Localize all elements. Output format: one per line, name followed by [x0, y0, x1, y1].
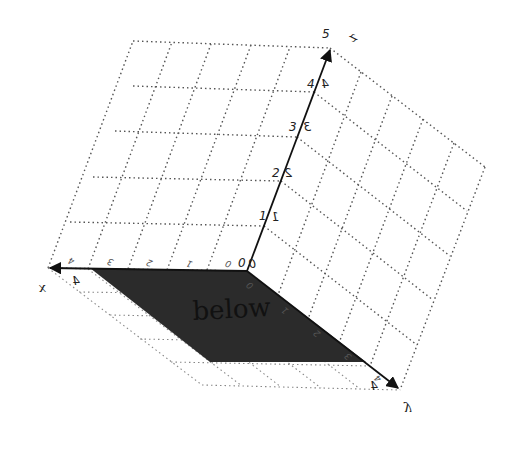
svg-text:3: 3	[106, 256, 115, 267]
svg-text:5: 5	[322, 27, 330, 41]
svg-text:2: 2	[145, 257, 154, 268]
svg-text:0: 0	[248, 257, 256, 271]
z-axis-name: z	[347, 31, 360, 48]
svg-text:1: 1	[271, 210, 279, 224]
z-axis-mirror-ticks: 0 1 2 3 4	[248, 77, 329, 271]
svg-text:3: 3	[289, 120, 297, 134]
y-axis-name: y	[403, 402, 412, 417]
svg-text:2: 2	[272, 166, 280, 180]
svg-text:4: 4	[321, 77, 329, 91]
svg-text:4: 4	[67, 255, 76, 266]
y-axis-end-label: 4	[370, 379, 378, 393]
x-axis-end-label: 4	[72, 274, 80, 288]
z-axis	[247, 50, 330, 271]
diagram-canvas: below 0 1 2 3 4 5 0 1 2 3 4 z 0 1 2 3 4 …	[0, 0, 515, 450]
svg-text:1: 1	[259, 209, 267, 223]
back-wall-grid	[48, 41, 330, 271]
z-axis-ticks: 0 1 2 3 4 5	[238, 27, 330, 270]
x-axis-ticks: 0 1 2 3 4	[67, 255, 233, 269]
svg-text:2: 2	[284, 166, 292, 180]
svg-text:1: 1	[185, 258, 194, 269]
svg-text:4: 4	[307, 77, 315, 91]
svg-text:0: 0	[224, 258, 233, 269]
svg-text:0: 0	[238, 256, 246, 270]
plane-label: below	[192, 292, 272, 326]
svg-text:3: 3	[303, 120, 311, 134]
x-axis-name: x	[38, 280, 46, 295]
